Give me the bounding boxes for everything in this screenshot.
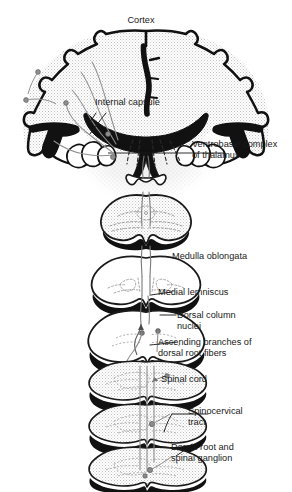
thalamic-relay-neuron-soma bbox=[106, 132, 111, 137]
cortical-neuron-soma bbox=[64, 101, 69, 106]
label-dorsal-column-nuclei-line2: nuclei bbox=[177, 321, 201, 331]
label-spinocervical-tract-line1: Spinocervical bbox=[188, 406, 243, 416]
label-medial-lemniscus: Medial lemniscus bbox=[158, 287, 229, 297]
label-cortex: Cortex bbox=[127, 15, 154, 25]
label-ventrobasal-complex-line1: Ventrobasal complex bbox=[192, 139, 278, 149]
label-medulla-oblongata: Medulla oblongata bbox=[172, 251, 248, 261]
label-ascending-branches-line1: Ascending branches of bbox=[158, 337, 252, 347]
label-spinocervical-tract-line2: tract bbox=[188, 417, 206, 427]
label-internal-capsule: Internal capsule bbox=[95, 97, 160, 107]
label-ascending-branches-line2: dorsal root fibers bbox=[158, 348, 227, 358]
label-spinal-cord: Spinal cord bbox=[161, 374, 207, 384]
somatosensory-pathway-diagram: Cortex Internal capsule Ventrobasal comp… bbox=[0, 0, 292, 492]
label-dorsal-root-ganglion-line2: spinal ganglion bbox=[171, 453, 232, 463]
midbrain-cross-section bbox=[101, 195, 191, 250]
label-dorsal-column-nuclei-line1: Dorsal column bbox=[177, 310, 236, 320]
thalamic-relay-neuron-soma bbox=[111, 155, 116, 160]
label-dorsal-root-ganglion-line1: Dorsal root and bbox=[171, 442, 234, 452]
label-ventrobasal-complex-line2: of thalamus bbox=[192, 150, 240, 160]
